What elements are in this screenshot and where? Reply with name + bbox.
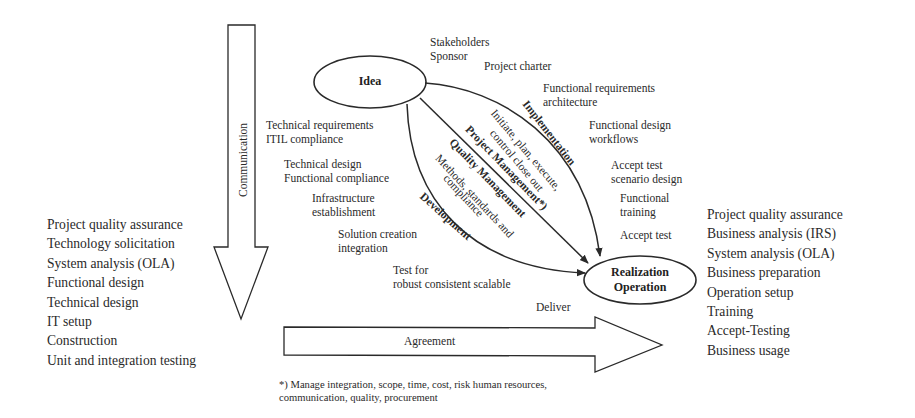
functional-requirements-label: Functional requirements architecture [543, 82, 655, 109]
footnote-line1: *) Manage integration, scope, time, cost… [279, 378, 547, 391]
right-list-item: Accept-Testing [707, 321, 843, 340]
right-list-item: Business usage [707, 341, 843, 360]
infrastructure-label: Infrastructure establishment [312, 192, 375, 219]
left-list-item: Construction [47, 331, 196, 350]
accept-test-design-label: Accept test scenario design [611, 159, 682, 186]
technical-design-label: Technical design Functional compliance [284, 158, 389, 185]
operation-label: Operation [596, 280, 684, 295]
functional-training-label: Functional training [620, 192, 669, 219]
left-list-item: Technology solicitation [47, 234, 196, 253]
realization-label: Realization [596, 265, 684, 280]
left-list-item: Unit and integration testing [47, 351, 196, 370]
agreement-label: Agreement [404, 335, 455, 349]
left-list-item: IT setup [47, 312, 196, 331]
right-activity-list: Project quality assurance Business analy… [707, 205, 843, 360]
left-list-item: Technical design [47, 293, 196, 312]
right-list-item: Training [707, 302, 843, 321]
accept-test-label: Accept test [620, 229, 671, 243]
idea-node: Idea [340, 74, 400, 89]
test-label: Test for robust consistent scalable [393, 264, 511, 291]
project-charter-label: Project charter [484, 60, 551, 74]
left-list-item: Project quality assurance [47, 215, 196, 234]
footnote: *) Manage integration, scope, time, cost… [279, 378, 547, 404]
right-list-item: Business preparation [707, 263, 843, 282]
deliver-label: Deliver [536, 301, 570, 315]
right-list-item: Project quality assurance [707, 205, 843, 224]
right-list-item: System analysis (OLA) [707, 244, 843, 263]
stakeholders-label: Stakeholders Sponsor [430, 36, 489, 63]
agreement-arrow [284, 317, 662, 372]
communication-label: Communication [237, 123, 249, 197]
idea-label: Idea [359, 74, 382, 88]
realization-node: Realization Operation [596, 265, 684, 295]
left-activity-list: Project quality assurance Technology sol… [47, 215, 196, 370]
technical-requirements-label: Technical requirements ITIL compliance [266, 119, 373, 146]
solution-creation-label: Solution creation integration [338, 228, 417, 255]
right-list-item: Operation setup [707, 283, 843, 302]
left-list-item: Functional design [47, 273, 196, 292]
functional-design-label: Functional design workflows [589, 119, 671, 146]
left-list-item: System analysis (OLA) [47, 254, 196, 273]
footnote-line2: communication, quality, procurement [279, 391, 547, 404]
right-list-item: Business analysis (IRS) [707, 224, 843, 243]
